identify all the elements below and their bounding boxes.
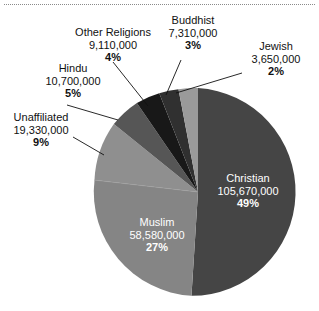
label-christian-percent: 49% [196,197,300,210]
label-muslim: Muslim 58,580,000 27% [110,216,204,254]
label-buddhist-name: Buddhist [154,14,232,27]
label-hindu-percent: 5% [31,87,115,100]
label-buddhist: Buddhist 7,310,000 3% [154,14,232,52]
label-hindu-value: 10,700,000 [31,75,115,88]
label-jewish-percent: 2% [236,65,316,78]
label-muslim-value: 58,580,000 [110,229,204,242]
label-hindu: Hindu 10,700,000 5% [31,62,115,100]
label-jewish-value: 3,650,000 [236,53,316,66]
label-unaffiliated-value: 19,330,000 [3,124,79,137]
label-unaffiliated: Unaffiliated 19,330,000 9% [3,111,79,149]
label-other-religions-value: 9,110,000 [60,39,166,52]
label-unaffiliated-name: Unaffiliated [3,111,79,124]
label-other-religions: Other Religions 9,110,000 4% [60,26,166,64]
pie-chart-figure: Other Religions 9,110,000 4% Buddhist 7,… [0,0,319,311]
label-christian: Christian 105,670,000 49% [196,172,300,210]
label-hindu-name: Hindu [31,62,115,75]
label-muslim-percent: 27% [110,241,204,254]
label-christian-name: Christian [196,172,300,185]
label-buddhist-percent: 3% [154,39,232,52]
label-jewish: Jewish 3,650,000 2% [236,40,316,78]
label-buddhist-value: 7,310,000 [154,27,232,40]
leader-line-other-religions [113,62,148,106]
label-unaffiliated-percent: 9% [3,136,79,149]
label-christian-value: 105,670,000 [196,185,300,198]
label-muslim-name: Muslim [110,216,204,229]
label-jewish-name: Jewish [236,40,316,53]
label-other-religions-name: Other Religions [60,26,166,39]
